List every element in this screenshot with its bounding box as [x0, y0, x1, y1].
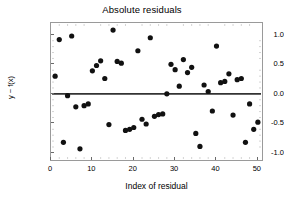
residual-plot-figure: Absolute residuals y − f(x) -1.0-0.50.00… — [0, 0, 284, 201]
y-tick-mark — [51, 93, 54, 94]
x-tick-label: 0 — [38, 164, 62, 173]
x-tick-label: 30 — [162, 164, 186, 173]
x-tick-label: 20 — [121, 164, 145, 173]
x-tick-label: 50 — [245, 164, 269, 173]
y-tick-mark — [51, 152, 54, 153]
x-tick-mark — [215, 157, 216, 160]
y-tick-mark — [51, 122, 54, 123]
x-tick-mark — [50, 157, 51, 160]
x-tick-mark — [91, 157, 92, 160]
x-tick-mark — [133, 157, 134, 160]
x-tick-label: 40 — [203, 164, 227, 173]
x-axis-label: Index of residual — [50, 181, 263, 191]
x-tick-mark — [257, 157, 258, 160]
y-tick-mark — [51, 34, 54, 35]
y-tick-mark — [51, 63, 54, 64]
x-tick-label: 10 — [79, 164, 103, 173]
x-tick-mark — [174, 157, 175, 160]
x-axis: 01020304050 — [0, 0, 284, 201]
